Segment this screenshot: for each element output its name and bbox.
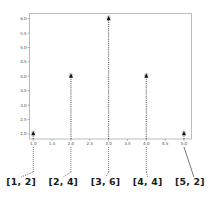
x-tick-label: 4.5 bbox=[162, 141, 169, 146]
data-pair-label: [1, 2] bbox=[6, 176, 36, 187]
y-tick-label: 3.0 bbox=[20, 103, 27, 108]
data-pair-label: [4, 4] bbox=[133, 176, 163, 187]
y-tick-label: 5.5 bbox=[20, 31, 27, 36]
x-tick-label: 1.0 bbox=[30, 141, 37, 146]
x-tick-label: 4.0 bbox=[143, 141, 150, 146]
y-tick-label: 4.5 bbox=[20, 59, 27, 64]
y-tick-label: 4.0 bbox=[20, 74, 27, 79]
stem-plot-canvas: 2.02.53.03.54.04.55.05.56.0 1.01.52.02.5… bbox=[0, 0, 211, 198]
y-tick-label: 2.5 bbox=[20, 117, 27, 122]
data-pair-label: [2, 4] bbox=[48, 176, 78, 187]
x-tick-label: 1.5 bbox=[49, 141, 56, 146]
stem-plot-figure: 2.02.53.03.54.04.55.05.56.0 1.01.52.02.5… bbox=[0, 0, 211, 198]
y-tick-label: 3.5 bbox=[20, 88, 27, 93]
y-axis-tick-labels: 2.02.53.03.54.04.55.05.56.0 bbox=[20, 16, 27, 136]
x-tick-label: 2.0 bbox=[68, 141, 75, 146]
y-tick-label: 5.0 bbox=[20, 45, 27, 50]
y-tick-label: 6.0 bbox=[20, 16, 27, 21]
x-tick-label: 3.0 bbox=[105, 141, 112, 146]
plot-area-frame bbox=[30, 14, 192, 140]
x-tick-label: 5.0 bbox=[181, 141, 188, 146]
data-pair-label: [5, 2] bbox=[175, 176, 205, 187]
x-tick-label: 2.5 bbox=[87, 141, 94, 146]
data-pair-label: [3, 6] bbox=[91, 176, 121, 187]
x-axis-tick-labels: 1.01.52.02.53.03.54.04.55.0 bbox=[30, 141, 188, 146]
x-tick-label: 3.5 bbox=[124, 141, 131, 146]
y-tick-label: 2.0 bbox=[20, 131, 27, 136]
